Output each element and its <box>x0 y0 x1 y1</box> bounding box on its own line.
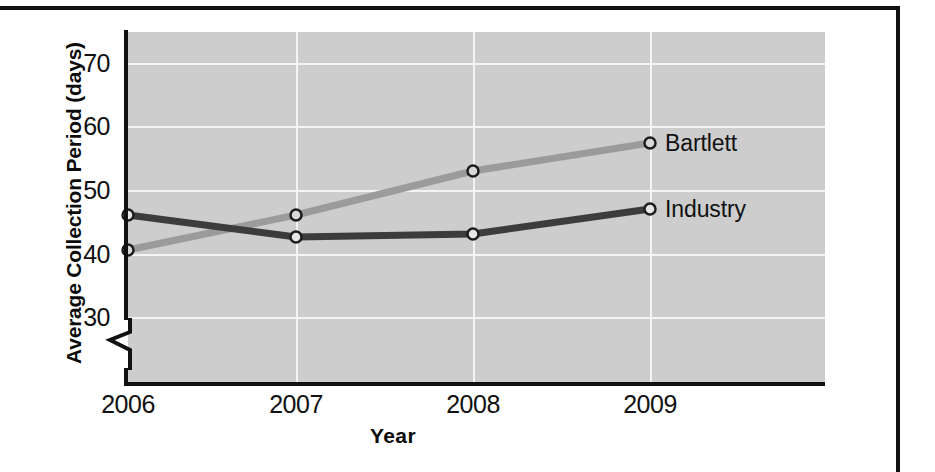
figure-page: 70 60 50 40 30 2006 2007 2008 2009 Bartl… <box>0 0 935 472</box>
x-axis-title: Year <box>128 424 658 448</box>
data-point-industry-2007 <box>291 232 302 243</box>
y-axis-line <box>124 30 128 320</box>
x-axis-line <box>124 382 825 386</box>
data-point-bartlett-2008 <box>468 166 479 177</box>
data-point-bartlett-2009 <box>645 138 656 149</box>
data-point-industry-2009 <box>645 204 656 215</box>
x-tick-label-2007: 2007 <box>241 390 351 419</box>
x-tick-label-2008: 2008 <box>418 390 528 419</box>
data-point-industry-2008 <box>468 229 479 240</box>
line-chart: 70 60 50 40 30 2006 2007 2008 2009 Bartl… <box>0 0 896 472</box>
x-tick-label-2009: 2009 <box>595 390 705 419</box>
y-axis-title: Average Collection Period (days) <box>62 44 86 364</box>
series-label-bartlett: Bartlett <box>665 130 737 157</box>
x-tick-label-2006: 2006 <box>73 390 183 419</box>
series-label-industry: Industry <box>665 196 746 223</box>
data-point-bartlett-2007 <box>291 210 302 221</box>
